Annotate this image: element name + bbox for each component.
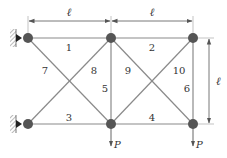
member-label-1: 1 (66, 42, 72, 53)
member-label-5: 5 (102, 83, 108, 94)
node-top-middle (106, 33, 116, 43)
wall-hatch-icon (10, 29, 16, 47)
node-bottom-middle (106, 119, 116, 129)
node-top-right (188, 33, 198, 43)
dimension-label-right: ℓ (150, 6, 155, 19)
node-bottom-left (23, 119, 33, 129)
member-label-10: 10 (173, 65, 186, 76)
support-bottom-left (10, 115, 22, 133)
truss-diagram: ℓ ℓ ℓ 1 2 3 4 5 6 7 (0, 0, 227, 158)
member-label-3: 3 (66, 112, 72, 123)
load-label: P (113, 139, 121, 150)
member-label-7: 7 (42, 65, 48, 76)
dimension-top: ℓ ℓ (28, 6, 193, 34)
support-top-left (10, 29, 22, 47)
member-labels: 1 2 3 4 5 6 7 8 9 10 (42, 42, 190, 123)
load-label: P (195, 139, 203, 150)
member-label-8: 8 (91, 65, 97, 76)
node-bottom-right (188, 119, 198, 129)
wall-hatch-icon (10, 115, 16, 133)
member-label-4: 4 (149, 112, 155, 123)
dimension-right: ℓ (197, 38, 221, 124)
member-label-6: 6 (184, 83, 190, 94)
node-top-left (23, 33, 33, 43)
truss-members (28, 38, 193, 124)
member-label-9: 9 (125, 65, 131, 76)
pin-triangle-icon (16, 120, 22, 128)
dimension-label-vertical: ℓ (216, 75, 221, 88)
member-label-2: 2 (149, 42, 155, 53)
pin-triangle-icon (16, 34, 22, 42)
loads: P P (111, 124, 203, 150)
dimension-label-left: ℓ (67, 6, 72, 19)
